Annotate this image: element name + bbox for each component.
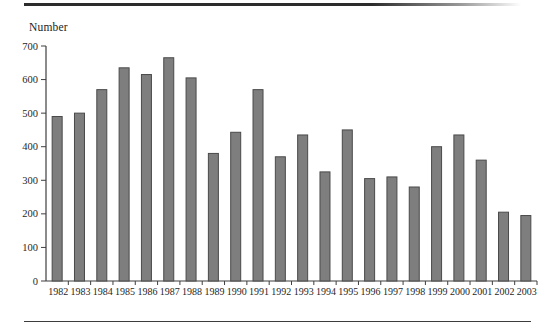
bar-1985 bbox=[119, 68, 129, 281]
x-tick-label: 1984 bbox=[93, 286, 113, 297]
bar-1990 bbox=[231, 132, 241, 281]
x-tick-label: 1999 bbox=[428, 286, 448, 297]
x-tick-label: 1993 bbox=[294, 286, 314, 297]
x-tick-label: 1989 bbox=[204, 286, 224, 297]
bar-1995 bbox=[342, 130, 352, 281]
x-tick-label: 2003 bbox=[517, 286, 537, 297]
bar-1988 bbox=[186, 78, 196, 281]
bar-1991 bbox=[253, 90, 263, 281]
bar-2003 bbox=[521, 216, 531, 281]
scanned-page: Number 010020030040050060070019821983198… bbox=[0, 0, 541, 326]
x-tick-label: 1985 bbox=[115, 286, 135, 297]
y-tick-label: 700 bbox=[22, 41, 38, 52]
bar-2000 bbox=[454, 135, 464, 281]
x-tick-label: 1990 bbox=[227, 286, 247, 297]
x-tick-label: 2001 bbox=[472, 286, 492, 297]
bar-1997 bbox=[387, 177, 397, 281]
y-tick-label: 400 bbox=[22, 141, 38, 152]
x-tick-label: 1996 bbox=[361, 286, 381, 297]
x-tick-label: 1986 bbox=[137, 286, 157, 297]
x-tick-label: 1988 bbox=[182, 286, 202, 297]
bottom-horizontal-rule bbox=[24, 321, 531, 322]
bar-1987 bbox=[164, 58, 174, 281]
x-tick-label: 1992 bbox=[271, 286, 291, 297]
bar-1986 bbox=[141, 75, 151, 281]
y-tick-label: 100 bbox=[22, 242, 38, 253]
x-tick-label: 2000 bbox=[450, 286, 470, 297]
bar-chart: 0100200300400500600700198219831984198519… bbox=[0, 0, 541, 326]
x-tick-label: 1987 bbox=[160, 286, 180, 297]
x-tick-label: 1997 bbox=[383, 286, 403, 297]
bar-1994 bbox=[320, 172, 330, 281]
x-tick-label: 1983 bbox=[70, 286, 90, 297]
x-tick-label: 1998 bbox=[405, 286, 425, 297]
y-tick-label: 600 bbox=[22, 74, 38, 85]
x-tick-label: 1991 bbox=[249, 286, 269, 297]
bar-1993 bbox=[298, 135, 308, 281]
x-tick-label: 1982 bbox=[48, 286, 68, 297]
bar-1984 bbox=[97, 90, 107, 281]
x-tick-label: 1995 bbox=[338, 286, 358, 297]
y-tick-label: 200 bbox=[22, 208, 38, 219]
y-tick-label: 500 bbox=[22, 108, 38, 119]
bar-1983 bbox=[74, 113, 84, 281]
x-tick-label: 2002 bbox=[495, 286, 515, 297]
y-tick-label: 0 bbox=[33, 276, 38, 287]
y-tick-label: 300 bbox=[22, 175, 38, 186]
bar-1982 bbox=[52, 117, 62, 282]
bar-1996 bbox=[365, 179, 375, 281]
bar-1992 bbox=[275, 157, 285, 281]
bar-1989 bbox=[208, 153, 218, 281]
bar-2002 bbox=[499, 212, 509, 281]
bar-1999 bbox=[432, 147, 442, 281]
x-tick-label: 1994 bbox=[316, 286, 336, 297]
bar-2001 bbox=[476, 160, 486, 281]
bar-1998 bbox=[409, 187, 419, 281]
